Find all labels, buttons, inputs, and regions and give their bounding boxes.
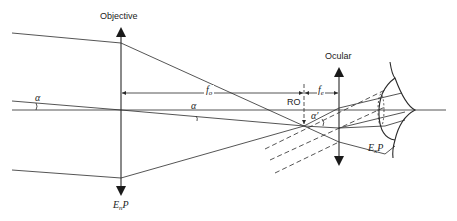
objective-bottom-arrow	[116, 186, 126, 196]
ro-label: RO	[287, 98, 301, 107]
dashed-ray-3	[275, 142, 339, 173]
ocular-top-arrow	[334, 67, 344, 77]
entrance-pupil-label: EnP	[113, 200, 129, 212]
objective-top-arrow	[116, 27, 126, 37]
alpha-center-label: α	[191, 101, 196, 111]
objective-label: Objective	[100, 12, 138, 21]
ocular-bottom-arrow	[334, 156, 344, 166]
alpha-prime-label: α′	[311, 111, 318, 121]
focal-length-objective-label: fo	[204, 85, 214, 97]
dashed-ray-1	[265, 90, 385, 149]
exit-pupil-label: ExP	[368, 143, 383, 155]
chief-ray	[12, 101, 385, 128]
focal-length-ocular-label: fe	[317, 85, 325, 97]
ocular-label: Ocular	[325, 52, 352, 61]
alpha-left-label: α	[35, 93, 40, 103]
optical-diagram	[0, 0, 457, 221]
